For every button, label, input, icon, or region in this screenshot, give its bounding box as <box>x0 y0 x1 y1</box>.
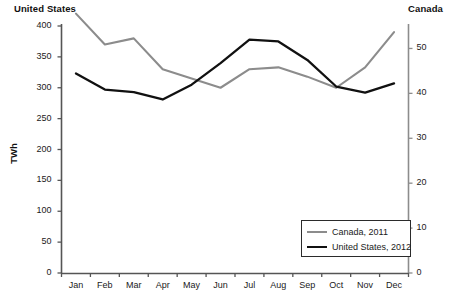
x-axis-tick-label: Dec <box>377 280 411 290</box>
legend-swatch-canada <box>307 231 327 233</box>
right-axis-tick-label: 30 <box>417 132 447 142</box>
legend-item-canada: Canada, 2011 <box>307 225 388 239</box>
left-axis-tick-label: 150 <box>22 174 52 184</box>
left-axis-tick-label: 400 <box>22 20 52 30</box>
left-axis-tick-label: 350 <box>22 51 52 61</box>
legend-label-canada: Canada, 2011 <box>332 227 388 237</box>
left-axis-tick-label: 100 <box>22 205 52 215</box>
dual-axis-line-chart: United States Canada TWh 050100150200250… <box>0 0 449 300</box>
legend: Canada, 2011 United States, 2012 <box>301 220 411 257</box>
right-axis-tick-label: 10 <box>417 222 447 232</box>
legend-label-united-states: United States, 2012 <box>332 242 411 252</box>
right-axis-tick-label: 50 <box>417 42 447 52</box>
legend-item-united-states: United States, 2012 <box>307 240 411 254</box>
left-axis-tick-label: 250 <box>22 113 52 123</box>
series-line-united-states <box>76 40 394 100</box>
left-axis-tick-label: 50 <box>22 236 52 246</box>
left-axis-tick-label: 200 <box>22 144 52 154</box>
legend-swatch-united-states <box>307 246 327 248</box>
left-axis-tick-label: 0 <box>22 267 52 277</box>
left-axis-tick-label: 300 <box>22 82 52 92</box>
right-axis-tick-label: 40 <box>417 87 447 97</box>
right-axis-tick-label: 20 <box>417 177 447 187</box>
right-axis-tick-label: 0 <box>417 267 447 277</box>
